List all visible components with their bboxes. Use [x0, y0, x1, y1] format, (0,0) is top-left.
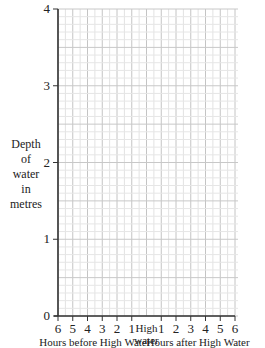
x-axis-label-before: Hours before High Water [39, 336, 150, 348]
x-tick-label-after: 2 [173, 321, 180, 336]
x-tick-label-before: 6 [55, 321, 62, 336]
x-tick-label-after: 4 [202, 321, 209, 336]
x-tick-label-after: 1 [158, 321, 165, 336]
tide-graph: 01234654321123456HighwaterHours before H… [0, 0, 265, 348]
high-water-label: High [136, 322, 159, 334]
y-tick-label: 0 [44, 308, 51, 323]
x-tick-label-after: 6 [232, 321, 239, 336]
x-tick-label-before: 5 [70, 321, 77, 336]
y-tick-label: 2 [44, 155, 51, 170]
tick-labels: 01234654321123456HighwaterHours before H… [39, 1, 250, 348]
x-axis-label-after: Hours after High Water [147, 336, 250, 348]
x-tick-label-after: 5 [217, 321, 224, 336]
x-tick-label-before: 3 [99, 321, 106, 336]
graph-grid [58, 9, 238, 316]
x-tick-label-before: 4 [84, 321, 91, 336]
y-tick-label: 3 [44, 78, 51, 93]
y-tick-label: 1 [44, 231, 51, 246]
x-tick-label-after: 3 [188, 321, 195, 336]
y-tick-label: 4 [44, 1, 51, 16]
x-tick-label-before: 2 [114, 321, 121, 336]
